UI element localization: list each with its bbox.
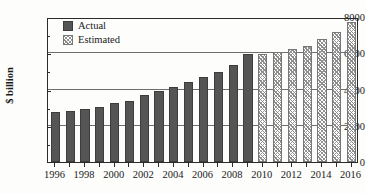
x-axis-tick-mark: [84, 163, 85, 167]
x-axis-tick-mark: [188, 163, 189, 167]
bar: [184, 82, 193, 162]
bar: [332, 32, 341, 162]
x-axis-tick-mark: [54, 163, 55, 167]
bar: [110, 103, 119, 162]
x-axis-tick-mark: [291, 163, 292, 167]
bar: [214, 72, 223, 162]
x-axis-tick-mark: [217, 163, 218, 167]
bar: [303, 46, 312, 162]
x-axis-tick-mark: [173, 163, 174, 167]
x-axis-tick-mark: [158, 163, 159, 167]
x-axis-tick-mark: [99, 163, 100, 167]
legend-swatch-icon: [63, 21, 73, 31]
bar: [317, 39, 326, 162]
x-axis-tick-mark: [321, 163, 322, 167]
bar: [80, 109, 89, 162]
bar: [243, 54, 252, 162]
x-axis-tick-mark: [277, 163, 278, 167]
bar: [258, 54, 267, 162]
x-axis-tick-mark: [128, 163, 129, 167]
bar: [288, 49, 297, 162]
bar: [140, 95, 149, 162]
x-axis-tick-mark: [143, 163, 144, 167]
bar: [154, 91, 163, 162]
y-axis-title: $ billion: [4, 56, 15, 116]
x-axis-tick-mark: [351, 163, 352, 167]
bar: [273, 52, 282, 162]
x-axis-tick-mark: [69, 163, 70, 167]
bar: [169, 87, 178, 162]
bar: [66, 111, 75, 162]
x-axis-tick-mark: [203, 163, 204, 167]
x-axis-tick-mark: [336, 163, 337, 167]
bar: [229, 65, 238, 162]
bar: [125, 101, 134, 162]
legend-item: Actual: [63, 19, 120, 32]
x-axis-tick-mark: [232, 163, 233, 167]
legend-swatch-icon: [63, 35, 73, 45]
bar: [347, 22, 356, 162]
bar: [199, 77, 208, 162]
legend-item: Estimated: [63, 33, 120, 46]
x-axis-tick-label: 2016: [331, 169, 370, 181]
x-axis-tick-mark: [114, 163, 115, 167]
bar: [95, 107, 104, 162]
legend-label: Estimated: [78, 33, 120, 46]
x-axis-tick-mark: [247, 163, 248, 167]
legend-label: Actual: [78, 19, 106, 32]
x-axis-tick-mark: [262, 163, 263, 167]
x-axis-tick-mark: [306, 163, 307, 167]
bar: [51, 112, 60, 162]
chart-legend: ActualEstimated: [63, 19, 120, 47]
